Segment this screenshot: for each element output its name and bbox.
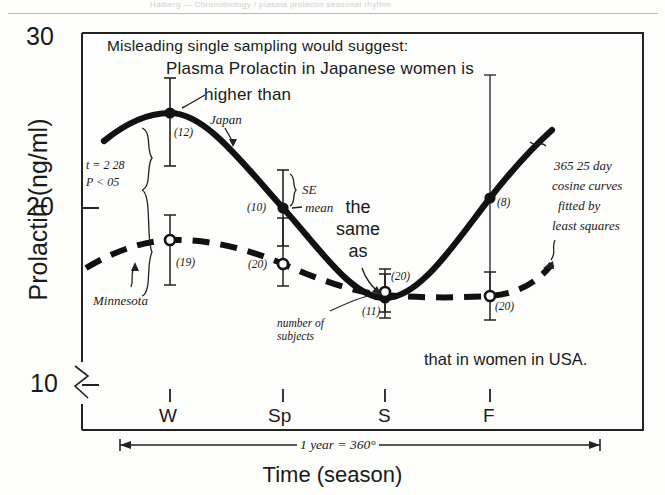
series-label-japan: Japan — [210, 112, 242, 128]
caption-line-3: higher than — [204, 85, 291, 105]
middle-note-same: same — [327, 220, 389, 239]
y-tick-label-30: 30 — [26, 22, 54, 51]
middle-note-the: the — [327, 198, 389, 217]
method-line-2: cosine curves — [552, 178, 622, 194]
year-span-label: 1 year = 360° — [297, 437, 379, 453]
se-label: SE — [302, 182, 316, 198]
n-label-minnesota-winter: (19) — [176, 256, 195, 268]
method-leader-bottom — [551, 240, 555, 260]
stat-t-value: t = 2 28 — [86, 158, 124, 173]
method-arrowhead — [543, 261, 554, 269]
x-tick-label-sp: Sp — [268, 405, 291, 427]
mean-pointer — [292, 207, 302, 208]
errorbar-japan-winter — [164, 78, 176, 166]
errorbar-minnesota-winter — [164, 215, 176, 285]
x-axis-ticks — [170, 389, 490, 402]
higher-than-leader — [182, 95, 205, 108]
x-tick-label-w: W — [159, 405, 177, 427]
subjects-label-line1: number of — [277, 317, 324, 329]
caption-line-4: that in women in USA. — [424, 350, 587, 369]
figure-root: Halberg — Chronobiology / plasma prolact… — [0, 0, 665, 495]
n-label-minnesota-spring: (20) — [248, 258, 267, 270]
stat-p-value: P < 05 — [86, 175, 119, 190]
datapoint-japan-spring — [277, 202, 288, 213]
caption-line-1: Misleading single sampling would suggest… — [107, 37, 408, 55]
datapoint-minnesota-fall — [485, 291, 495, 301]
datapoint-japan-winter — [164, 107, 175, 118]
x-axis-title: Time (season) — [0, 462, 665, 488]
method-line-4: least squares — [552, 218, 620, 234]
n-label-japan-fall: (8) — [497, 196, 510, 208]
n-label-japan-summer: (11) — [362, 305, 380, 317]
errorbar-japan-fall — [484, 75, 496, 294]
stat-brace — [142, 128, 152, 296]
x-tick-label-f: F — [483, 405, 495, 427]
se-brace — [290, 174, 296, 206]
subjects-label-line2: subjects — [277, 330, 314, 342]
errorbar-minnesota-spring — [277, 218, 289, 286]
y-axis-title: Prolactin (ng/ml) — [24, 80, 53, 340]
method-line-3: fitted by — [558, 198, 600, 214]
method-line-1: 365 25 day — [554, 158, 612, 174]
n-label-minnesota-summer: (20) — [391, 270, 410, 282]
datapoint-japan-fall — [484, 192, 495, 203]
caption-line-2: Plasma Prolactin in Japanese women is — [166, 59, 474, 79]
datapoint-minnesota-spring — [278, 259, 288, 269]
y-tick-label-10: 10 — [30, 369, 58, 398]
middle-note-as: as — [327, 242, 389, 261]
mean-label: mean — [305, 200, 333, 216]
series-label-minnesota: Minnesota — [93, 293, 148, 309]
n-label-minnesota-fall: (20) — [495, 300, 514, 312]
minnesota-arrowhead — [131, 262, 139, 271]
x-tick-label-s: S — [378, 405, 391, 427]
n-label-japan-winter: (12) — [174, 126, 193, 138]
datapoint-minnesota-winter — [165, 235, 175, 245]
n-label-japan-spring: (10) — [247, 201, 266, 213]
